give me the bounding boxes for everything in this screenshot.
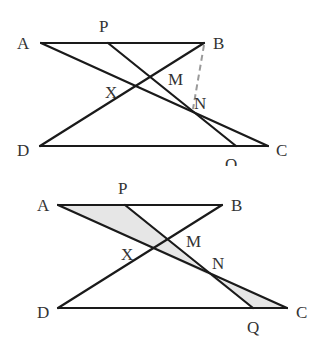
label-X: X: [105, 83, 117, 102]
label-N: N: [194, 94, 206, 113]
segment-BD: [40, 43, 204, 146]
figure-top: A P B X M N D C O: [17, 17, 287, 174]
label-P: P: [99, 17, 108, 36]
segment-PQ: [108, 43, 236, 146]
segment-AC: [58, 205, 287, 308]
label-C: C: [276, 141, 287, 160]
label-D: D: [17, 141, 29, 160]
label-M: M: [186, 232, 201, 251]
crop-mask: [0, 166, 324, 180]
geometry-diagram: A P B X M N D C O A P B X M N D C Q: [0, 0, 324, 357]
label-C: C: [296, 303, 307, 322]
label-P: P: [118, 179, 127, 198]
label-M: M: [168, 70, 183, 89]
label-D: D: [37, 303, 49, 322]
segment-PQ: [125, 205, 253, 308]
label-N: N: [212, 254, 224, 273]
figure-bottom: A P B X M N D C Q: [37, 179, 307, 337]
label-X: X: [121, 245, 133, 264]
label-B: B: [231, 196, 242, 215]
label-B: B: [213, 34, 224, 53]
label-A: A: [17, 34, 30, 53]
label-A: A: [37, 196, 50, 215]
segment-AC: [41, 43, 268, 146]
label-Q: Q: [247, 318, 259, 337]
